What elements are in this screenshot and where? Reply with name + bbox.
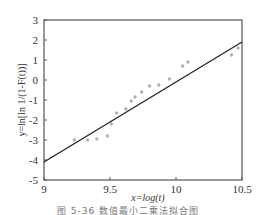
y-tick-label: -5 — [29, 174, 39, 186]
data-point — [181, 64, 184, 67]
data-point — [148, 84, 151, 87]
data-point — [110, 122, 113, 125]
data-point — [133, 95, 136, 98]
data-point — [168, 77, 171, 80]
figure-caption: 图 5-36 数值最小二乘法拟合图 — [0, 204, 256, 215]
x-tick-label: 9.5 — [103, 183, 117, 195]
y-tick-label: -2 — [29, 114, 38, 126]
data-point — [86, 138, 89, 141]
plot-area: 3210-1-2-3-4-599.51010.5x=log(t)y=ln[ln … — [16, 14, 252, 204]
y-axis-label: y=ln[ln 1/(1-F(t))] — [16, 63, 28, 136]
data-point — [236, 46, 239, 49]
y-tick-label: -1 — [29, 94, 38, 106]
data-point — [186, 60, 189, 63]
x-tick-label: 10 — [171, 183, 183, 195]
data-point — [157, 83, 160, 86]
data-point — [129, 99, 132, 102]
data-point — [124, 107, 127, 110]
data-point — [106, 134, 109, 137]
data-point — [140, 90, 143, 93]
x-tick-label: 10.5 — [232, 183, 252, 195]
plot-frame — [44, 20, 242, 180]
chart: 3210-1-2-3-4-599.51010.5x=log(t)y=ln[ln … — [0, 0, 256, 215]
y-tick-label: 3 — [33, 14, 39, 26]
data-point — [95, 137, 98, 140]
y-tick-label: 1 — [33, 54, 39, 66]
data-point — [230, 53, 233, 56]
y-tick-label: -4 — [29, 154, 39, 166]
x-axis-label: x=log(t) — [130, 192, 165, 204]
y-tick-label: -3 — [29, 134, 39, 146]
x-tick-label: 9 — [41, 183, 47, 195]
fit-line — [44, 42, 242, 162]
data-point — [115, 111, 118, 114]
y-tick-label: 0 — [33, 74, 39, 86]
data-point — [73, 138, 76, 141]
y-tick-label: 2 — [33, 34, 39, 46]
